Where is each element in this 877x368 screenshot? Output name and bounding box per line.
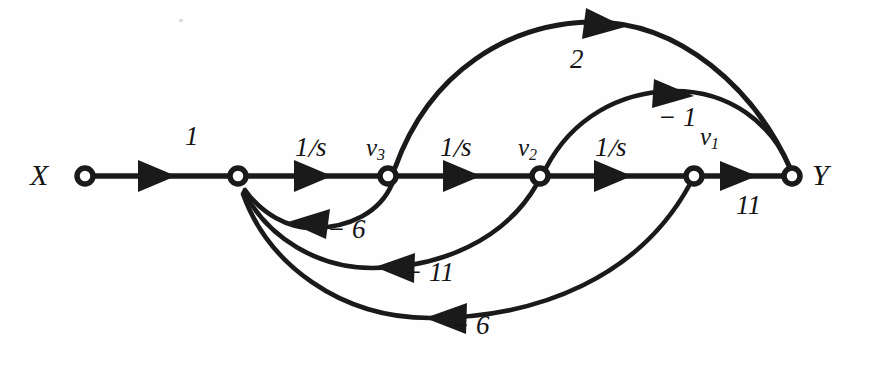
gain-label-x-sum: 1 [185,123,199,150]
gain-fraction: 1/s [295,134,327,161]
gain-label-feedback-v2: − 11 [404,259,454,286]
node-label-v2-base: v [518,134,529,161]
gain-label-v1-y: 11 [736,192,761,219]
signal-flow-graph-figure: X Y v3 v2 v1 1 1/s 1/s 1/s 11 2 − 1 − 6 … [0,0,877,368]
solidus-icon: / [308,135,317,162]
gain-label-feedback-v3: − 6 [327,216,365,243]
node-v3[interactable] [380,168,396,184]
arrowhead-v2-v1 [594,160,632,192]
gain-fraction: 1/s [440,134,472,161]
node-y[interactable] [784,168,800,184]
gain-numerator: 1 [295,132,309,162]
solidus-icon: / [453,135,462,162]
node-label-y: Y [812,160,829,190]
node-x[interactable] [77,168,93,184]
gain-numerator: 1 [440,132,454,162]
graph-canvas [0,0,877,368]
arrowhead-v3-sum-feedback [288,209,330,239]
node-label-v3-base: v [366,134,377,161]
gain-label-sum-v3: 1/s [295,134,327,161]
arrowhead-x-sum [138,160,176,192]
node-v2[interactable] [532,168,548,184]
node-label-v1-base: v [700,123,711,150]
gain-label-v3-v2: 1/s [440,134,472,161]
gain-fraction: 1/s [595,134,627,161]
arrowhead-sum-v3 [294,160,332,192]
node-sum[interactable] [230,168,246,184]
node-v1[interactable] [686,168,702,184]
gain-label-v3-y: 2 [570,46,584,73]
gain-label-v2-y: − 1 [658,104,696,131]
gain-numerator: 1 [595,132,609,162]
node-label-v2-sub: 2 [529,146,537,163]
edge-v1-sum-feedback [243,184,690,318]
arrowhead-v3-v2 [443,160,481,192]
arrowhead-v1-y [720,161,757,191]
node-label-v3-sub: 3 [377,146,385,163]
node-label-v1-sub: 1 [711,135,719,152]
node-label-x: X [30,160,48,190]
scan-artifact-speck [179,19,183,22]
node-label-v1: v1 [700,124,719,152]
node-label-v2: v2 [518,135,537,163]
gain-label-feedback-v1: − 6 [451,312,489,339]
gain-label-v2-v1: 1/s [595,134,627,161]
solidus-icon: / [608,135,617,162]
node-label-v3: v3 [366,135,385,163]
